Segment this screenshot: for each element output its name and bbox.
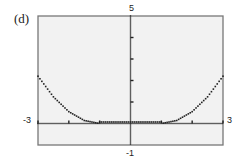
graph-plot <box>0 0 239 161</box>
